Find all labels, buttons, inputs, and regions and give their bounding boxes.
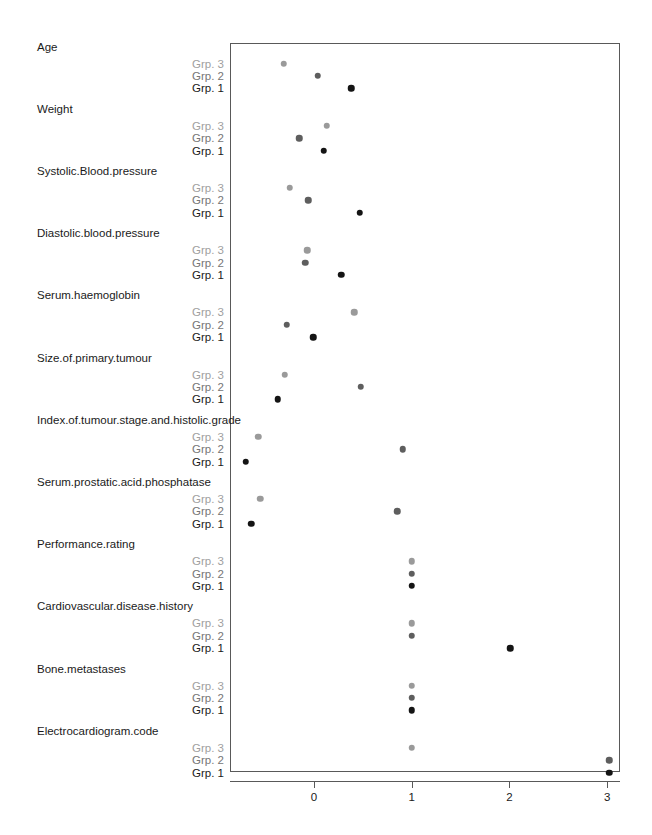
data-point	[296, 135, 303, 142]
category-label: Performance.rating	[37, 538, 135, 550]
group-tick-label-text: Grp. 2	[192, 257, 224, 269]
x-axis-tick	[412, 781, 413, 788]
group-tick-label-text: Grp. 1	[192, 767, 224, 779]
dotplot-figure: AgeWeightSystolic.Blood.pressureDiastoli…	[0, 0, 652, 835]
data-point	[408, 632, 415, 639]
category-label: Age	[37, 41, 57, 53]
x-axis-tick-label: 2	[506, 791, 512, 804]
data-point	[394, 508, 401, 515]
data-point	[257, 496, 264, 503]
group-tick-label-text: Grp. 2	[192, 754, 224, 766]
group-tick-label-text: Grp. 1	[192, 269, 224, 281]
data-point	[275, 396, 282, 403]
x-axis-tick	[509, 781, 510, 788]
data-point	[408, 583, 415, 590]
data-point	[408, 558, 415, 565]
group-tick-label-text: Grp. 1	[192, 580, 224, 592]
data-point	[248, 520, 255, 527]
category-label: Weight	[37, 103, 73, 115]
x-axis-line	[230, 781, 620, 782]
data-point	[351, 309, 358, 316]
data-point	[357, 209, 364, 216]
group-tick-label-text: Grp. 1	[192, 704, 224, 716]
group-tick-label-text: Grp. 2	[192, 630, 224, 642]
data-point	[507, 645, 514, 652]
category-label: Diastolic.blood.pressure	[37, 227, 160, 239]
category-label: Serum.haemoglobin	[37, 289, 140, 301]
group-tick-label-text: Grp. 1	[192, 207, 224, 219]
group-tick-label-text: Grp. 3	[192, 58, 224, 70]
data-point	[305, 197, 312, 204]
group-tick-label-text: Grp. 3	[192, 617, 224, 629]
group-tick-label-text: Grp. 3	[192, 182, 224, 194]
data-point	[280, 60, 287, 67]
group-tick-label-text: Grp. 2	[192, 381, 224, 393]
category-label: Bone.metastases	[37, 663, 126, 675]
group-tick-label-text: Grp. 3	[192, 680, 224, 692]
group-tick-label-text: Grp. 3	[192, 555, 224, 567]
data-point	[606, 757, 613, 764]
data-point	[606, 769, 613, 776]
group-tick-label-text: Grp. 2	[192, 132, 224, 144]
x-axis-tick-label: 3	[604, 791, 610, 804]
group-tick-label-text: Grp. 1	[192, 393, 224, 405]
data-point	[283, 321, 290, 328]
data-point	[315, 73, 322, 80]
group-tick-label-text: Grp. 2	[192, 70, 224, 82]
data-point	[321, 147, 328, 154]
data-point	[408, 744, 415, 751]
data-point	[281, 371, 288, 378]
data-point	[408, 620, 415, 627]
group-tick-label-text: Grp. 1	[192, 456, 224, 468]
data-point	[408, 570, 415, 577]
data-point	[302, 259, 309, 266]
group-tick-label-text: Grp. 2	[192, 443, 224, 455]
category-label: Cardiovascular.disease.history	[37, 600, 193, 612]
group-tick-label-text: Grp. 1	[192, 518, 224, 530]
category-label: Serum.prostatic.acid.phosphatase	[37, 476, 211, 488]
x-axis-tick-label: 1	[408, 791, 414, 804]
data-point	[338, 272, 345, 279]
data-point	[408, 695, 415, 702]
data-point	[358, 384, 365, 391]
data-point	[400, 446, 407, 453]
group-tick-label-text: Grp. 3	[192, 493, 224, 505]
group-tick-label-text: Grp. 1	[192, 145, 224, 157]
group-tick-label-text: Grp. 2	[192, 194, 224, 206]
category-label: Size.of.primary.tumour	[37, 352, 152, 364]
data-point	[255, 433, 262, 440]
x-axis-tick	[607, 781, 608, 788]
group-tick-label-text: Grp. 3	[192, 742, 224, 754]
group-tick-label-text: Grp. 3	[192, 431, 224, 443]
group-tick-label-text: Grp. 2	[192, 568, 224, 580]
group-tick-label-text: Grp. 1	[192, 82, 224, 94]
data-point	[323, 122, 330, 129]
x-axis-tick-label: 0	[311, 791, 317, 804]
data-point	[310, 334, 317, 341]
data-point	[348, 85, 355, 92]
group-tick-label-text: Grp. 3	[192, 306, 224, 318]
plot-area	[230, 43, 620, 772]
data-point	[304, 247, 311, 254]
group-tick-label-text: Grp. 2	[192, 692, 224, 704]
data-point	[408, 682, 415, 689]
group-tick-label-text: Grp. 1	[192, 642, 224, 654]
group-tick-label-text: Grp. 1	[192, 331, 224, 343]
group-tick-label-text: Grp. 2	[192, 505, 224, 517]
group-tick-label-text: Grp. 3	[192, 120, 224, 132]
data-point	[408, 707, 415, 714]
group-tick-label-text: Grp. 3	[192, 369, 224, 381]
category-label: Index.of.tumour.stage.and.histolic.grade	[37, 414, 241, 426]
category-label: Electrocardiogram.code	[37, 725, 158, 737]
data-point	[242, 458, 249, 465]
x-axis-tick	[314, 781, 315, 788]
category-label: Systolic.Blood.pressure	[37, 165, 157, 177]
data-point	[286, 185, 293, 192]
group-tick-label-text: Grp. 3	[192, 244, 224, 256]
group-tick-label-text: Grp. 2	[192, 319, 224, 331]
